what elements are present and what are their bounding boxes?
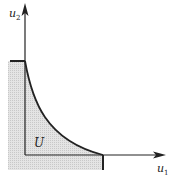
region-u-shading xyxy=(8,61,103,170)
u1-label-sub: 1 xyxy=(164,169,168,177)
diagram-svg xyxy=(0,0,179,180)
u1-axis-label: u1 xyxy=(157,163,169,177)
u2-label-sub: 2 xyxy=(16,14,20,22)
region-u-label: U xyxy=(34,137,44,149)
diagram-canvas: u2 u1 U xyxy=(0,0,179,180)
u2-axis-label: u2 xyxy=(9,8,21,22)
